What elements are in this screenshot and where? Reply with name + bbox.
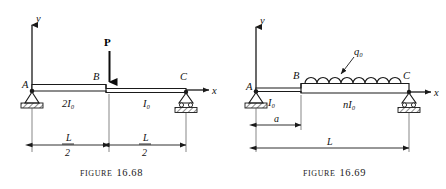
beam-body — [32, 85, 186, 93]
node-label-c: C — [403, 70, 411, 81]
roller-support-c — [175, 90, 197, 113]
figure-16-69: y x q₀ A B C I₀ — [223, 0, 446, 189]
node-label-a: A — [245, 81, 253, 92]
figure-16-68: y x P A B C 2I₀ I₀ — [0, 0, 223, 189]
figure-16-68-drawing: y x P A B C 2I₀ I₀ — [0, 0, 223, 166]
dimension-left-half: L 2 — [32, 132, 109, 158]
dim-right-denominator: 2 — [142, 147, 147, 158]
distributed-load-label: q₀ — [354, 46, 363, 57]
dim-left-denominator: 2 — [65, 147, 70, 158]
node-label-a: A — [21, 79, 29, 90]
x-axis-label: x — [433, 87, 439, 98]
section-label-left: 2I₀ — [62, 98, 75, 109]
beam-body — [256, 84, 409, 94]
dimension-L: L — [256, 136, 409, 148]
node-label-b: B — [93, 71, 100, 82]
section-label-right: nI₀ — [343, 99, 356, 110]
dimension-right-half: L 2 — [109, 132, 186, 158]
figure-caption-right: Figure16.69 — [223, 166, 446, 178]
caption-number-left: 16.68 — [116, 167, 143, 178]
dim-right-numerator: L — [142, 132, 149, 143]
caption-word-right: Figure — [303, 166, 336, 178]
figure-16-69-drawing: y x q₀ A B C I₀ — [223, 0, 446, 166]
node-label-b: B — [293, 70, 300, 81]
point-load-label: P — [104, 36, 111, 48]
load-leader-line — [341, 57, 354, 74]
dim-left-numerator: L — [65, 132, 72, 143]
y-axis-label: y — [35, 13, 41, 24]
node-label-c: C — [180, 71, 188, 82]
section-label-right: I₀ — [142, 98, 150, 109]
x-axis-label: x — [211, 85, 217, 96]
caption-word-left: Figure — [80, 166, 113, 178]
pin-support-a — [21, 89, 43, 108]
caption-number-right: 16.69 — [339, 167, 366, 178]
dim-a-label: a — [274, 113, 279, 124]
distributed-load-arcs — [305, 78, 401, 84]
y-axis-label: y — [259, 15, 265, 26]
figure-page: y x P A B C 2I₀ I₀ — [0, 0, 446, 189]
figure-caption-left: Figure16.68 — [0, 166, 223, 178]
dimension-a: a — [256, 113, 301, 125]
section-label-left: I₀ — [267, 97, 275, 108]
dim-L-label: L — [326, 136, 333, 147]
